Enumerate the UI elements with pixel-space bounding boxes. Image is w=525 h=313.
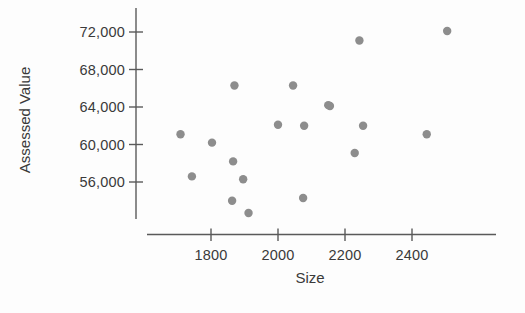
y-axis-group: 56,00060,00064,00068,00072,000 (79, 8, 143, 219)
data-point (229, 157, 237, 165)
data-point (359, 122, 367, 130)
scatter-plot-figure: 56,00060,00064,00068,00072,000 180020002… (0, 0, 525, 313)
x-tick-label: 2000 (261, 247, 294, 263)
data-point (355, 36, 363, 44)
x-axis-group: 1800200022002400 (147, 229, 496, 264)
data-point (188, 172, 196, 180)
data-point (299, 194, 307, 202)
data-point (326, 102, 334, 110)
x-tick-label: 1800 (194, 247, 227, 263)
y-tick-label: 72,000 (79, 24, 125, 40)
data-point (244, 209, 252, 217)
data-point (274, 121, 282, 129)
data-point (351, 149, 359, 157)
y-tick-label: 64,000 (79, 99, 125, 115)
y-tick-label: 60,000 (79, 137, 125, 153)
data-point (176, 130, 184, 138)
x-tick-labels: 1800200022002400 (194, 247, 428, 263)
x-axis-title: Size (295, 269, 324, 286)
data-point (239, 175, 247, 183)
y-tick-label: 68,000 (79, 62, 125, 78)
data-point (208, 138, 216, 146)
data-point (228, 197, 236, 205)
data-point (423, 130, 431, 138)
x-tick-label: 2200 (328, 247, 361, 263)
x-tick-label: 2400 (395, 247, 428, 263)
y-tick-label: 56,000 (79, 174, 125, 190)
data-point (443, 27, 451, 35)
data-point (289, 81, 297, 89)
data-point (230, 81, 238, 89)
y-axis-title: Assessed Value (16, 67, 33, 173)
chart-canvas: 56,00060,00064,00068,00072,000 180020002… (0, 0, 525, 313)
data-point-series (176, 27, 451, 217)
y-tick-labels: 56,00060,00064,00068,00072,000 (79, 24, 125, 190)
data-point (300, 122, 308, 130)
